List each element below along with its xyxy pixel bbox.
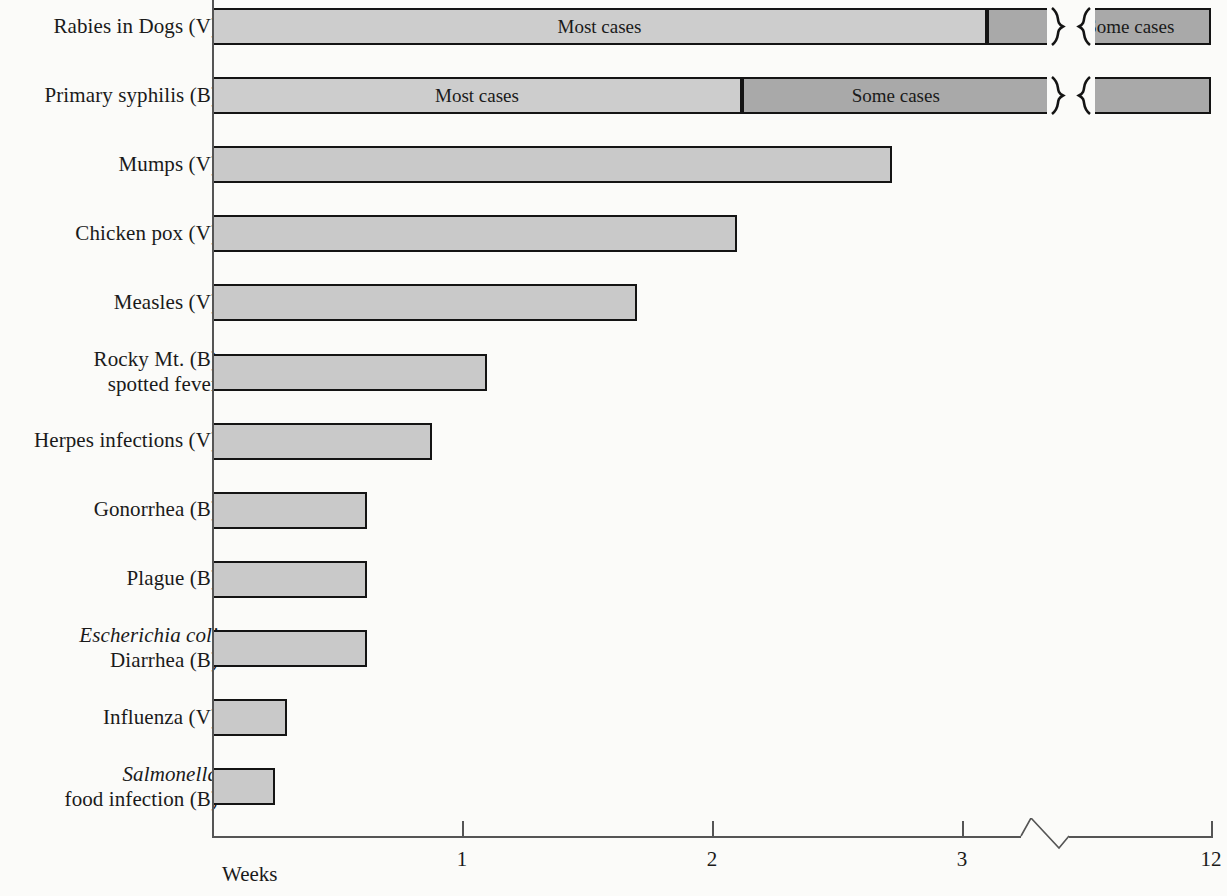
bar-rabies-in-dogs-seg-1: Most cases bbox=[212, 8, 987, 45]
bar-gonorrhea bbox=[212, 492, 367, 529]
category-label-chicken-pox: Chicken pox (V) bbox=[75, 221, 218, 246]
category-label-line1: Salmonella bbox=[123, 762, 219, 786]
x-axis-line-right bbox=[1069, 836, 1213, 838]
bar-segment-label: Most cases bbox=[214, 16, 985, 38]
x-tick-label-3: 3 bbox=[942, 847, 982, 872]
bar-segment-label: Some cases bbox=[744, 85, 1048, 107]
bar-rocky-mt-spotted-fever bbox=[212, 354, 487, 391]
category-label-line1: Herpes infections (V) bbox=[34, 428, 218, 452]
y-axis-line bbox=[212, 0, 214, 836]
x-tick-3 bbox=[962, 821, 964, 836]
x-tick-label-1: 1 bbox=[442, 847, 482, 872]
category-label-line1: Escherichia coli bbox=[79, 623, 218, 647]
category-label-herpes-infections: Herpes infections (V) bbox=[34, 428, 218, 453]
x-axis-break-zigzag bbox=[1019, 818, 1071, 858]
category-label-line1: Rabies in Dogs (V) bbox=[53, 14, 218, 38]
category-label-line1: Primary syphilis (B) bbox=[45, 83, 219, 107]
bar-segment-label: Most cases bbox=[214, 85, 740, 107]
x-tick-2 bbox=[712, 821, 714, 836]
category-label-plague: Plague (B) bbox=[127, 566, 218, 591]
bar-primary-syphilis-seg-2: Some cases bbox=[742, 77, 1050, 114]
category-label-line1: Mumps (V) bbox=[119, 152, 218, 176]
bar-chicken-pox bbox=[212, 215, 737, 252]
bar-primary-syphilis-seg-1: Most cases bbox=[212, 77, 742, 114]
bar-mumps bbox=[212, 146, 892, 183]
category-label-line2: spotted fever bbox=[94, 372, 218, 397]
category-label-line1: Rocky Mt. (B) bbox=[94, 347, 218, 371]
bar-salmonella-food-infection bbox=[212, 768, 275, 805]
category-label-measles: Measles (V) bbox=[114, 290, 218, 315]
bar-rabies-in-dogs-seg-2 bbox=[987, 8, 1050, 45]
category-label-line2: food infection (B) bbox=[65, 787, 218, 812]
category-label-line1: Chicken pox (V) bbox=[75, 221, 218, 245]
bar-measles bbox=[212, 284, 637, 321]
category-label-line2: Diarrhea (B) bbox=[79, 648, 218, 673]
category-label-primary-syphilis: Primary syphilis (B) bbox=[45, 83, 219, 108]
bar-break-symbol bbox=[1046, 3, 1096, 50]
category-label-escherichia-coli-diarrhea: Escherichia coliDiarrhea (B) bbox=[79, 623, 218, 673]
x-tick-12 bbox=[1211, 821, 1213, 836]
category-label-rocky-mt-spotted-fever: Rocky Mt. (B)spotted fever bbox=[94, 347, 218, 397]
category-label-line1: Gonorrhea (B) bbox=[94, 497, 218, 521]
category-label-line1: Plague (B) bbox=[127, 566, 218, 590]
category-label-influenza: Influenza (V) bbox=[103, 705, 218, 730]
category-label-line1: Measles (V) bbox=[114, 290, 218, 314]
category-label-line1: Influenza (V) bbox=[103, 705, 218, 729]
chart-canvas: Rabies in Dogs (V)Most casesSome casesPr… bbox=[0, 0, 1227, 896]
bar-plague bbox=[212, 561, 367, 598]
bar-break-symbol bbox=[1046, 72, 1096, 119]
bar-herpes-infections bbox=[212, 423, 432, 460]
bar-escherichia-coli-diarrhea bbox=[212, 630, 367, 667]
category-label-mumps: Mumps (V) bbox=[119, 152, 218, 177]
x-axis-title: Weeks bbox=[222, 862, 277, 887]
x-axis-line-left bbox=[212, 836, 1021, 838]
category-label-rabies-in-dogs: Rabies in Dogs (V) bbox=[53, 14, 218, 39]
x-tick-1 bbox=[462, 821, 464, 836]
category-label-salmonella-food-infection: Salmonellafood infection (B) bbox=[65, 762, 218, 812]
x-tick-label-2: 2 bbox=[692, 847, 732, 872]
bar-influenza bbox=[212, 699, 287, 736]
x-tick-label-12: 12 bbox=[1191, 847, 1227, 872]
category-label-gonorrhea: Gonorrhea (B) bbox=[94, 497, 218, 522]
